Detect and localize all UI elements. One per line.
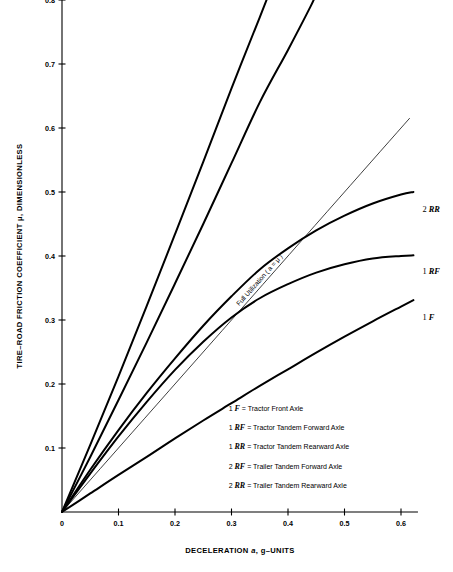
y-tick-label: 0.3 [45,316,55,325]
y-tick-label: 0.2 [45,380,55,389]
x-tick-label: 0.1 [114,519,124,528]
chart-background [0,0,453,572]
x-tick-label: 0.2 [170,519,180,528]
y-tick-label: 0.6 [45,124,55,133]
curve-label-2-rr: 2 RR [422,205,440,214]
legend-item: 1 RF = Tractor Tandem Forward Axle [229,423,345,432]
y-tick-label: 0.1 [45,444,55,453]
x-tick-label: 0.4 [283,519,293,528]
legend-item: 2 RF = Trailer Tandem Forward Axle [229,462,343,471]
chart-container: 0.10.20.30.40.50.60.70.8 00.10.20.30.40.… [0,0,453,572]
y-tick-label: 0.5 [45,188,55,197]
x-tick-label: 0.5 [340,519,350,528]
y-tick-label: 0.7 [45,60,55,69]
y-tick-label: 0.4 [45,252,55,261]
x-tick-label: 0 [60,519,64,528]
friction-coefficient-chart: 0.10.20.30.40.50.60.70.8 00.10.20.30.40.… [0,0,453,572]
x-tick-label: 0.6 [396,519,406,528]
x-tick-label: 0.3 [227,519,237,528]
curve-label-1-rf: 1 RF [422,267,440,276]
curve-label-1-f: 1 F [422,313,434,322]
x-axis-title: DECELERATION a, g–UNITS [185,546,295,555]
y-axis-title: TIRE–ROAD FRICTION COEFFICIENT μ, DIMENS… [15,144,24,369]
legend-item: 2 RR = Trailer Tandem Rearward Axle [229,481,347,490]
legend-item: 1 RR = Tractor Tandem Rearward Axle [229,442,350,451]
legend-item: 1 F = Tractor Front Axle [229,404,304,413]
y-tick-label: 0.8 [45,0,55,5]
